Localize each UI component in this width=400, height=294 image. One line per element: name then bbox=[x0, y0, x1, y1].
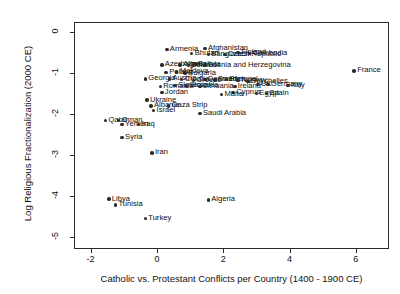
y-tick-label: -5 bbox=[50, 223, 60, 249]
x-tick-label: -2 bbox=[76, 254, 106, 264]
y-tick-mark bbox=[70, 73, 74, 74]
data-point-label: France bbox=[357, 66, 381, 74]
x-tick-mark bbox=[223, 249, 224, 253]
y-tick-mark bbox=[70, 237, 74, 238]
data-point-label: Gaza Strip bbox=[172, 101, 208, 109]
y-tick-label: -4 bbox=[50, 182, 60, 208]
data-point-label: Tunisia bbox=[118, 200, 142, 208]
y-axis-label: Log Religious Fractionalization (2000 CE… bbox=[22, 14, 33, 254]
data-point bbox=[150, 151, 153, 154]
data-point-label: Iraq bbox=[142, 120, 155, 128]
y-tick-label: 0 bbox=[50, 18, 60, 44]
data-point bbox=[266, 83, 269, 86]
x-tick-label: 6 bbox=[341, 254, 371, 264]
data-point bbox=[149, 104, 152, 107]
data-point-label: Spain bbox=[269, 89, 288, 97]
scatter-plot-figure: -202460-1-2-3-4-5 ArmeniaBhutanAfghanist… bbox=[0, 0, 400, 294]
data-point bbox=[198, 85, 201, 88]
y-tick-mark bbox=[70, 196, 74, 197]
data-point bbox=[352, 69, 355, 72]
x-axis-label: Catholic vs. Protestant Conflicts per Co… bbox=[74, 273, 389, 284]
data-point-label: Malta bbox=[225, 90, 244, 98]
data-point bbox=[160, 63, 163, 66]
data-point bbox=[256, 83, 259, 86]
data-point-label: Cambodia bbox=[253, 49, 288, 57]
data-point bbox=[159, 85, 162, 88]
data-point bbox=[207, 198, 210, 201]
data-point-label: Iran bbox=[155, 148, 168, 156]
data-point-label: Syria bbox=[125, 133, 142, 141]
x-tick-label: 4 bbox=[275, 254, 305, 264]
data-point bbox=[114, 203, 117, 206]
data-point bbox=[286, 84, 289, 87]
y-tick-mark bbox=[70, 155, 74, 156]
y-tick-label: -1 bbox=[50, 59, 60, 85]
data-point bbox=[165, 48, 168, 51]
data-point-label: Bosnia and Herzegovina bbox=[208, 61, 291, 69]
x-tick-mark bbox=[290, 249, 291, 253]
x-tick-label: 2 bbox=[208, 254, 238, 264]
x-tick-label: 0 bbox=[142, 254, 172, 264]
data-point bbox=[203, 47, 206, 50]
y-tick-label: -3 bbox=[50, 141, 60, 167]
data-point-label: Turkey bbox=[148, 214, 171, 222]
data-point-label: Saudi Arabia bbox=[203, 109, 246, 117]
data-point bbox=[145, 98, 148, 101]
y-tick-mark bbox=[70, 114, 74, 115]
y-tick-label: -2 bbox=[50, 100, 60, 126]
data-point bbox=[198, 112, 201, 115]
data-point bbox=[160, 91, 163, 94]
data-point bbox=[144, 77, 147, 80]
data-point-label: Italy bbox=[291, 81, 305, 89]
x-tick-mark bbox=[91, 249, 92, 253]
y-tick-mark bbox=[70, 32, 74, 33]
data-point-label: Algeria bbox=[211, 195, 235, 203]
data-point bbox=[144, 217, 147, 220]
x-tick-mark bbox=[157, 249, 158, 253]
data-point-label: Israel bbox=[157, 106, 176, 114]
data-point bbox=[107, 197, 110, 200]
x-tick-mark bbox=[356, 249, 357, 253]
